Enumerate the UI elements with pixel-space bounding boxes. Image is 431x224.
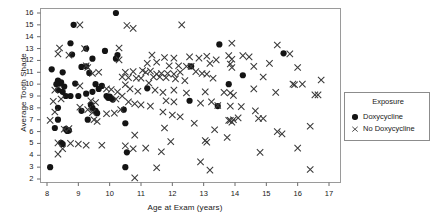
x-tick-label: 11: [133, 189, 149, 198]
data-point-x: [94, 118, 100, 124]
y-tick-label: 11: [18, 67, 34, 76]
data-point-x: [197, 159, 203, 165]
data-point-x: [135, 88, 141, 94]
data-point-x: [124, 22, 130, 28]
data-point-x: [227, 90, 233, 96]
series-no-doxycycline: [47, 22, 324, 181]
data-point-x: [150, 74, 156, 80]
y-tick-label: 14: [18, 32, 34, 41]
data-point-x: [204, 139, 210, 145]
series-doxycycline: [47, 10, 287, 170]
data-point-x: [130, 146, 136, 152]
data-point-dot: [67, 40, 73, 46]
data-point-x: [294, 145, 300, 151]
data-point-x: [197, 100, 203, 106]
data-point-dot: [52, 125, 58, 131]
data-point-x: [171, 71, 177, 77]
data-point-dot: [102, 48, 108, 54]
data-point-x: [166, 63, 172, 69]
data-point-x: [103, 111, 109, 117]
x-tick-label: 9: [70, 189, 86, 198]
data-point-x: [251, 63, 257, 69]
data-point-x: [182, 77, 188, 83]
data-point-x: [171, 55, 177, 61]
y-tick-label: 16: [18, 8, 34, 17]
data-point-x: [175, 63, 181, 69]
data-point-x: [221, 89, 227, 95]
legend-item-doxycycline[interactable]: Doxycycline: [351, 112, 403, 121]
data-point-x: [257, 149, 263, 155]
data-point-dot: [240, 72, 246, 78]
data-point-x: [130, 25, 136, 31]
data-point-dot: [61, 83, 67, 89]
data-point-x: [50, 98, 56, 104]
data-point-x: [171, 99, 177, 105]
data-point-dot: [144, 85, 150, 91]
data-point-x: [77, 83, 83, 89]
data-point-x: [149, 52, 155, 58]
x-tick-label: 14: [227, 189, 243, 198]
data-point-x: [260, 115, 266, 121]
data-point-x: [132, 132, 138, 138]
data-point-x: [83, 142, 89, 148]
data-point-x: [207, 167, 213, 173]
legend-item-no-doxycycline[interactable]: No Doxycycline: [351, 124, 415, 133]
scatter-plot-figure: Average Tooth Shade Age at Exam (years) …: [0, 0, 431, 224]
y-tick-label: 8: [18, 103, 34, 112]
legend-item-label: Doxycycline: [363, 112, 403, 121]
data-point-x: [99, 142, 105, 148]
y-tick-label: 5: [18, 138, 34, 147]
y-tick-label: 3: [18, 162, 34, 171]
data-point-x: [130, 68, 136, 74]
data-point-x: [152, 87, 158, 93]
axis-ticks: [37, 13, 329, 186]
data-point-dot: [122, 120, 128, 126]
data-point-x: [96, 69, 102, 75]
data-point-x: [122, 143, 128, 149]
x-tick-label: 16: [290, 189, 306, 198]
x-tick-label: 15: [258, 189, 274, 198]
data-point-x: [163, 98, 169, 104]
data-point-x: [183, 90, 189, 96]
data-point-x: [67, 140, 73, 146]
data-point-x: [246, 54, 252, 60]
data-point-x: [111, 110, 117, 116]
x-marker-icon: [351, 125, 359, 133]
data-point-dot: [53, 81, 59, 87]
x-tick-label: 17: [321, 189, 337, 198]
data-point-x: [144, 60, 150, 66]
y-tick-label: 15: [18, 20, 34, 29]
data-point-dot: [60, 69, 66, 75]
data-point-x: [172, 76, 178, 82]
data-point-x: [204, 53, 210, 59]
data-point-dot: [121, 107, 127, 113]
data-point-x: [52, 109, 58, 115]
data-point-dot: [107, 93, 113, 99]
data-point-dot: [216, 41, 222, 47]
y-tick-label: 12: [18, 55, 34, 64]
data-point-x: [168, 138, 174, 144]
data-point-x: [125, 99, 131, 105]
data-point-dot: [55, 117, 61, 123]
legend-item-label: No Doxycycline: [363, 124, 415, 133]
data-point-x: [208, 99, 214, 105]
x-tick-label: 12: [164, 189, 180, 198]
x-tick-label: 13: [196, 189, 212, 198]
y-tick-label: 4: [18, 150, 34, 159]
data-point-x: [299, 81, 305, 87]
filled-circle-icon: [351, 113, 359, 121]
data-point-x: [210, 75, 216, 81]
data-point-x: [160, 89, 166, 95]
data-point-x: [138, 75, 144, 81]
data-point-x: [47, 117, 53, 123]
y-tick-label: 9: [18, 91, 34, 100]
data-point-x: [177, 69, 183, 75]
data-point-dot: [83, 91, 89, 97]
legend-title: Exposure: [345, 97, 431, 106]
data-point-x: [227, 103, 233, 109]
data-point-dot: [49, 66, 55, 72]
data-point-x: [75, 141, 81, 147]
data-point-dot: [67, 93, 73, 99]
data-point-x: [230, 92, 236, 98]
data-point-x: [307, 123, 313, 129]
